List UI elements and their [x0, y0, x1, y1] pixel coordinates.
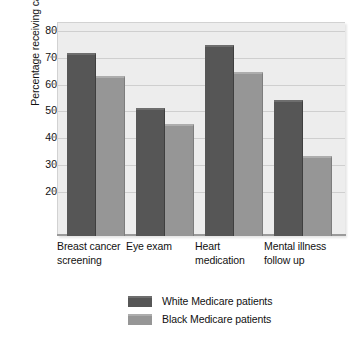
- y-tick-mark-30: [50, 163, 57, 164]
- legend-swatch-icon-series-1: [128, 296, 152, 307]
- plot-area: [57, 22, 345, 236]
- bar-face: [165, 124, 194, 236]
- bar-face: [234, 72, 263, 237]
- y-tick-mark-20: [50, 190, 57, 191]
- legend-swatch-icon-series-2: [128, 314, 152, 325]
- bar-face: [67, 53, 96, 236]
- bar-face: [274, 100, 303, 236]
- chart-legend: White Medicare patients Black Medicare p…: [128, 293, 338, 329]
- bar-face: [96, 76, 125, 237]
- legend-label-series-1: White Medicare patients: [162, 295, 272, 307]
- bar-series-2-group-1: [96, 76, 125, 237]
- bar-series-2-group-3: [234, 72, 263, 237]
- bar-series-1-group-2: [136, 108, 165, 236]
- y-tick-mark-60: [50, 83, 57, 84]
- gridline-70: [58, 58, 345, 59]
- x-axis-label-group-3: Heart medication: [195, 240, 245, 267]
- legend-item-white-medicare-patients: White Medicare patients: [128, 293, 338, 309]
- bar-series-1-group-3: [205, 45, 234, 236]
- x-axis-label-group-4: Mental illness follow up: [264, 240, 326, 267]
- x-axis-label-group-2: Eye exam: [126, 240, 172, 254]
- x-axis-category-labels: Breast cancer screeningEye examHeart med…: [57, 240, 352, 280]
- bar-face: [136, 108, 165, 236]
- bar-face: [205, 45, 234, 236]
- y-tick-mark-70: [50, 56, 57, 57]
- gridline-80: [58, 31, 345, 32]
- bar-face: [303, 156, 332, 236]
- x-axis-label-group-1: Breast cancer screening: [57, 240, 120, 267]
- bar-series-1-group-4: [274, 100, 303, 236]
- bar-series-1-group-1: [67, 53, 96, 236]
- bar-chart-figure: Percentage receiving care 20304050607080…: [0, 0, 360, 343]
- legend-label-series-2: Black Medicare patients: [162, 313, 271, 325]
- y-tick-mark-40: [50, 137, 57, 138]
- bar-series-2-group-4: [303, 156, 332, 236]
- plot-inner: [58, 23, 345, 236]
- legend-item-black-medicare-patients: Black Medicare patients: [128, 311, 338, 327]
- bar-series-2-group-2: [165, 124, 194, 236]
- y-tick-mark-50: [50, 110, 57, 111]
- y-tick-mark-80: [50, 30, 57, 31]
